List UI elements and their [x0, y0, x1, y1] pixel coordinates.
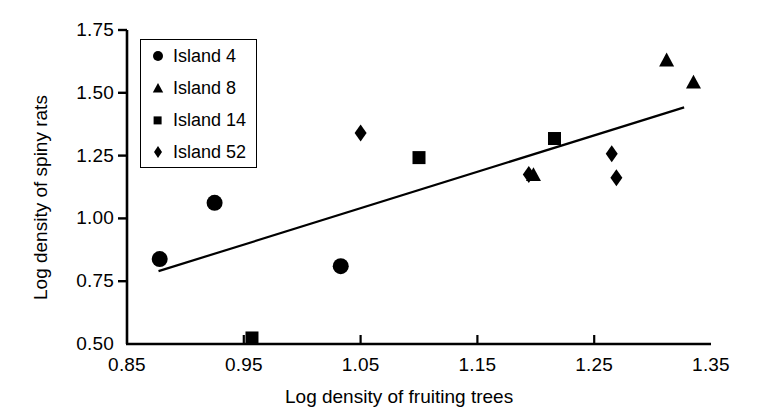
legend-label: Island 8	[169, 78, 236, 99]
x-axis-ticks	[244, 335, 594, 344]
x-tick-label: 0.95	[214, 354, 274, 376]
diamond-marker-icon	[147, 144, 169, 160]
y-tick-label: 1.25	[54, 145, 114, 167]
y-tick-label: 1.50	[54, 82, 114, 104]
data-point-circle	[152, 251, 168, 267]
y-tick-label: 0.75	[54, 270, 114, 292]
data-point-circle	[333, 258, 349, 274]
y-tick-label: 1.00	[54, 207, 114, 229]
x-tick-label: 1.15	[447, 354, 507, 376]
data-point-triangle	[686, 75, 701, 89]
y-tick-label: 0.50	[54, 333, 114, 355]
legend: Island 4 Island 8 Island 14 Island 52	[140, 39, 257, 168]
y-axis-title: Log density of spiny rats	[30, 95, 52, 300]
data-point-circle	[207, 195, 223, 211]
x-axis-title: Log density of fruiting trees	[285, 386, 513, 408]
data-point-square	[245, 331, 258, 344]
legend-item-island-52: Island 52	[147, 140, 246, 164]
scatter-plot-figure: 0.500.751.001.251.501.75 0.850.951.051.1…	[0, 0, 761, 418]
data-point-diamond	[355, 124, 367, 141]
legend-item-island-8: Island 8	[147, 76, 236, 100]
legend-item-island-4: Island 4	[147, 44, 236, 68]
data-point-diamond	[610, 169, 622, 186]
data-point-triangle	[659, 53, 674, 67]
triangle-marker-icon	[147, 80, 169, 96]
data-point-square	[548, 132, 561, 145]
x-tick-label: 1.05	[331, 354, 391, 376]
circle-marker-icon	[147, 48, 169, 64]
data-point-square	[413, 151, 426, 164]
x-tick-label: 1.35	[681, 354, 741, 376]
legend-label: Island 52	[169, 142, 246, 163]
data-point-diamond	[606, 145, 618, 162]
x-tick-label: 1.25	[564, 354, 624, 376]
legend-item-island-14: Island 14	[147, 108, 246, 132]
y-axis-ticks	[118, 30, 127, 281]
y-tick-label: 1.75	[54, 19, 114, 41]
legend-label: Island 4	[169, 46, 236, 67]
legend-label: Island 14	[169, 110, 246, 131]
square-marker-icon	[147, 112, 169, 128]
x-tick-label: 0.85	[97, 354, 157, 376]
